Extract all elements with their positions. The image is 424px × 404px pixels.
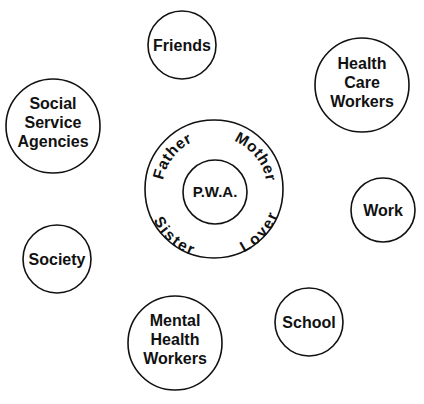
node-society: Society <box>23 225 91 293</box>
center-node: P.W.A. Father Mother Sister Lover <box>145 120 283 258</box>
ring-label-sister: Sister <box>151 213 198 258</box>
ring-label-father: Father <box>149 129 194 181</box>
school-label: School <box>282 314 335 331</box>
node-social-service-agencies: Social Service Agencies <box>6 79 100 173</box>
health-care-workers-label-line3: Workers <box>330 93 394 110</box>
node-school: School <box>275 288 343 356</box>
support-network-diagram: Friends Health Care Workers Social Servi… <box>0 0 424 404</box>
node-work: Work <box>351 178 415 242</box>
mental-health-workers-label-line3: Workers <box>143 350 207 367</box>
society-label: Society <box>29 251 86 268</box>
mental-health-workers-label-line1: Mental <box>150 312 201 329</box>
work-label: Work <box>363 202 403 219</box>
friends-label: Friends <box>153 37 211 54</box>
pwa-label: P.W.A. <box>193 183 238 200</box>
mental-health-workers-label-line2: Health <box>151 331 200 348</box>
ring-label-mother-path: Mother <box>232 128 280 182</box>
ring-label-father-path: Father <box>149 129 194 181</box>
node-health-care-workers: Health Care Workers <box>315 38 409 132</box>
node-mental-health-workers: Mental Health Workers <box>128 296 222 390</box>
health-care-workers-label-line1: Health <box>338 55 387 72</box>
social-service-agencies-label-line3: Agencies <box>17 133 88 150</box>
ring-label-mother: Mother <box>232 128 280 182</box>
node-friends: Friends <box>148 11 216 79</box>
social-service-agencies-label-line1: Social <box>29 95 76 112</box>
ring-label-sister-path: Sister <box>151 213 198 258</box>
ring-label-lover: Lover <box>237 209 281 255</box>
ring-label-lover-path: Lover <box>237 209 281 255</box>
health-care-workers-label-line2: Care <box>344 74 380 91</box>
social-service-agencies-label-line2: Service <box>25 114 82 131</box>
